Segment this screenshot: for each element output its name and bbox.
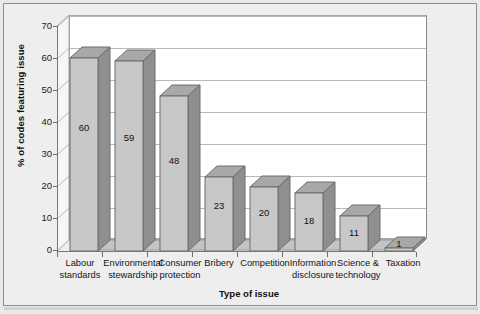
ytick-mark-70 [53,26,58,27]
bar-value-competition: 20 [250,207,278,218]
bar-value-taxation: 1 [385,238,413,249]
bar-science-technology[interactable]: 11 [340,216,368,251]
xtick-mark-5 [282,252,283,257]
bar-competition[interactable]: 20 [250,187,278,251]
x-axis-title-text: Type of issue [219,288,279,299]
plot-left-wall [57,15,70,251]
xcat-line-2: technology [325,270,391,282]
x-axis-title: Type of issue [0,288,480,299]
ytick-label-50: 50 [30,85,52,95]
xtick-mark-1 [102,252,103,257]
xtick-mark-4 [237,252,238,257]
xtick-mark-7 [372,252,373,257]
ytick-label-70: 70 [30,21,52,31]
bar-value-labour-standards: 60 [70,122,98,133]
xtick-mark-6 [327,252,328,257]
ytick-label-60: 60 [30,53,52,63]
ytick-mark-40 [53,122,58,123]
ytick-label-30: 30 [30,149,52,159]
bar-information-disclosure[interactable]: 18 [295,193,323,251]
ytick-label-40: 40 [30,117,52,127]
ytick-mark-60 [53,58,58,59]
ytick-label-10: 10 [30,213,52,223]
xtick-mark-2 [147,252,148,257]
ytick-label-20: 20 [30,181,52,191]
ytick-label-0: 0 [30,245,52,255]
gridline-60 [70,48,426,49]
bar-value-information-disclosure: 18 [295,215,323,226]
bar-value-science-technology: 11 [340,227,368,238]
xtick-mark-8 [416,252,417,257]
bar-bribery[interactable]: 23 [205,177,233,251]
figure-frame-shadow [4,307,478,310]
bar-labour-standards[interactable]: 60 [70,58,98,251]
bar-value-bribery: 23 [205,200,233,211]
bar-value-environmental-stewardship: 59 [115,132,143,143]
xtick-mark-0 [57,252,58,257]
xcat-label-taxation: Taxation [374,258,432,270]
ytick-mark-50 [53,90,58,91]
xcat-line-1: Taxation [374,258,432,270]
xtick-mark-3 [192,252,193,257]
ytick-mark-20 [53,186,58,187]
xcat-line-2: protection [148,270,212,282]
y-axis-title: % of codes featuring issue [15,21,26,191]
ytick-mark-30 [53,154,58,155]
bar-environmental-stewardship[interactable]: 59 [115,61,143,251]
bar-value-consumer-protection: 48 [160,155,188,166]
chart-screenshot: 70 60 50 40 30 20 10 0 % of codes featur… [0,0,480,314]
gridline-70 [70,16,426,17]
ytick-mark-10 [53,218,58,219]
bar-consumer-protection[interactable]: 48 [160,96,188,251]
